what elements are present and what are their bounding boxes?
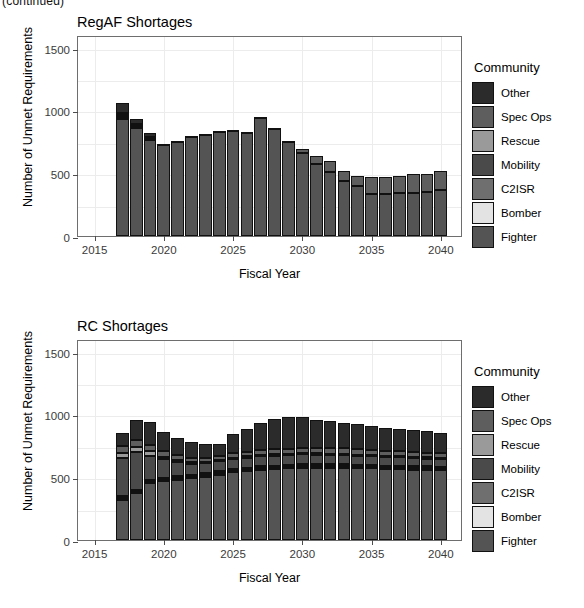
bar-stack [213, 341, 226, 540]
legend-item[interactable]: Spec Ops [472, 410, 584, 432]
x-axis-tick-label: 2040 [428, 244, 454, 256]
bar-segment [213, 444, 226, 456]
bar-segment [296, 149, 309, 153]
legend-item[interactable]: Fighter [472, 530, 584, 552]
legend-swatch-icon [472, 458, 494, 480]
bar-segment [282, 449, 295, 454]
bar-segment [351, 455, 364, 457]
bar-segment [116, 498, 129, 500]
bar-segment [171, 476, 184, 478]
bar-stack [365, 37, 378, 236]
y-axis-tick [73, 542, 78, 543]
bar-segment [393, 469, 406, 540]
legend-item[interactable]: Rescue [472, 130, 584, 152]
legend-item[interactable]: C2ISR [472, 178, 584, 200]
grid-line-vertical [95, 341, 96, 540]
bar-segment [254, 468, 267, 470]
legend-rows: OtherSpec OpsRescueMobilityC2ISRBomberFi… [472, 386, 584, 552]
bar-segment [310, 156, 323, 165]
bar-segment [213, 460, 226, 462]
bar-segment [421, 431, 434, 452]
bar-segment [393, 468, 406, 470]
x-axis-tick [372, 236, 373, 241]
bar-stack [324, 37, 337, 236]
x-axis-tick [441, 236, 442, 241]
y-axis-tick-label: 500 [51, 473, 70, 485]
legend-item[interactable]: Mobility [472, 154, 584, 176]
bar-segment [310, 464, 323, 466]
bar-stack [268, 341, 281, 540]
bar-segment [338, 455, 351, 464]
legend-item[interactable]: Bomber [472, 506, 584, 528]
bar-stack [268, 37, 281, 236]
bar-segment [241, 458, 254, 468]
x-axis-tick-label: 2035 [359, 548, 385, 560]
legend-item[interactable]: Rescue [472, 434, 584, 456]
x-axis-tick [95, 236, 96, 241]
bar-segment [351, 467, 364, 469]
bar-segment [421, 457, 434, 459]
bar-stack [310, 341, 323, 540]
bar-segment [421, 468, 434, 470]
bar-stack [144, 341, 157, 540]
bar-segment [213, 456, 226, 460]
bar-stack [130, 341, 143, 540]
legend-item[interactable]: Other [472, 386, 584, 408]
bar-segment [241, 468, 254, 470]
bar-segment [310, 448, 323, 454]
bar-segment [296, 448, 309, 454]
bar-segment [407, 174, 420, 192]
bar-segment [421, 174, 434, 192]
bar-stack [421, 341, 434, 540]
legend-swatch-icon [472, 226, 494, 248]
x-axis-tick-label: 2025 [220, 244, 246, 256]
bar-segment [241, 132, 254, 134]
y-axis-tick [73, 479, 78, 480]
bar-segment [393, 456, 406, 458]
bar-segment [241, 452, 254, 457]
bar-segment [227, 453, 240, 457]
bar-segment [310, 420, 323, 448]
bar-segment [144, 133, 157, 137]
legend-item[interactable]: Other [472, 82, 584, 104]
bar-stack [185, 37, 198, 236]
legend-title: Community [474, 60, 584, 75]
legend-item[interactable]: Mobility [472, 458, 584, 480]
bar-segment [130, 440, 143, 447]
legend-item-label: Fighter [501, 231, 537, 243]
bar-segment [185, 477, 198, 479]
bar-segment [338, 466, 351, 468]
bar-segment [116, 458, 129, 496]
bar-stack [379, 341, 392, 540]
bar-segment [199, 475, 212, 477]
bar-segment [171, 462, 184, 476]
y-axis-tick [73, 416, 78, 417]
bar-segment [130, 420, 143, 439]
bar-segment [130, 447, 143, 452]
bar-segment [157, 459, 170, 477]
bar-segment [324, 421, 337, 448]
legend-item-label: C2ISR [501, 183, 535, 195]
bar-segment [130, 493, 143, 540]
legend-item[interactable]: Fighter [472, 226, 584, 248]
legend-item[interactable]: Spec Ops [472, 106, 584, 128]
bar-segment [407, 430, 420, 452]
x-axis-tick-label: 2030 [290, 244, 316, 256]
legend-item[interactable]: Bomber [472, 202, 584, 224]
legend-item-label: C2ISR [501, 487, 535, 499]
bar-segment [407, 193, 420, 236]
bar-stack [241, 37, 254, 236]
legend-item[interactable]: C2ISR [472, 482, 584, 504]
bar-stack [393, 341, 406, 540]
bar-segment [434, 171, 447, 189]
bar-segment [130, 128, 143, 236]
bar-segment [268, 129, 281, 236]
bar-segment [241, 471, 254, 540]
y-axis-tick-label: 1500 [44, 44, 70, 56]
bar-segment [227, 458, 240, 460]
legend-swatch-icon [472, 130, 494, 152]
legend-item-label: Rescue [501, 135, 540, 147]
x-axis-tick-label: 2040 [428, 548, 454, 560]
bar-stack [282, 341, 295, 540]
legend-item-label: Spec Ops [501, 415, 552, 427]
